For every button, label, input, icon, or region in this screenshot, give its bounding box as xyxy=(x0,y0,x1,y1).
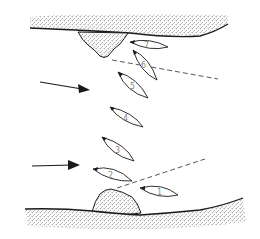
boat-label-1: 1 xyxy=(157,188,162,197)
boat-3: 3 xyxy=(102,137,134,161)
boat-6: 6 xyxy=(133,50,157,80)
boat-4: 4 xyxy=(110,107,143,127)
boat-5: 5 xyxy=(118,72,148,98)
boat-label-7: 7 xyxy=(144,41,149,50)
boat-1: 1 xyxy=(140,186,178,197)
boat-label-2: 2 xyxy=(108,171,113,180)
top-bank xyxy=(30,15,228,37)
bottom-rock xyxy=(92,189,141,215)
boat-label-5: 5 xyxy=(130,82,135,91)
boat-2: 2 xyxy=(93,167,132,181)
boat-label-6: 6 xyxy=(141,61,146,70)
boat-7: 7 xyxy=(130,40,168,50)
boat-label-3: 3 xyxy=(115,146,120,155)
river-diagram: 7 6 5 4 3 2 1 xyxy=(0,0,260,239)
current-arrow-upper-icon xyxy=(40,82,90,93)
lower-alignment-line xyxy=(117,159,205,188)
boat-label-4: 4 xyxy=(123,114,128,123)
current-arrow-lower-icon xyxy=(32,160,80,170)
top-rock xyxy=(78,32,128,58)
